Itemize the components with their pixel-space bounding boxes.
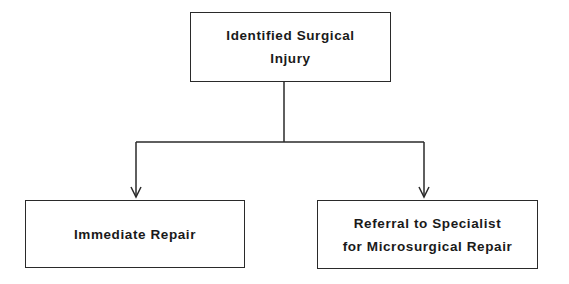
node-referral-to-specialist: Referral to Specialist for Microsurgical… (317, 200, 538, 269)
left-node-line-1: Immediate Repair (74, 223, 196, 246)
right-node-line-1: Referral to Specialist (354, 212, 502, 235)
root-node-line-1: Identified Surgical (226, 24, 354, 47)
right-node-line-2: for Microsurgical Repair (343, 235, 513, 258)
root-node-identified-surgical-injury: Identified Surgical Injury (190, 12, 391, 82)
root-node-line-2: Injury (270, 47, 310, 70)
node-immediate-repair: Immediate Repair (25, 200, 245, 268)
